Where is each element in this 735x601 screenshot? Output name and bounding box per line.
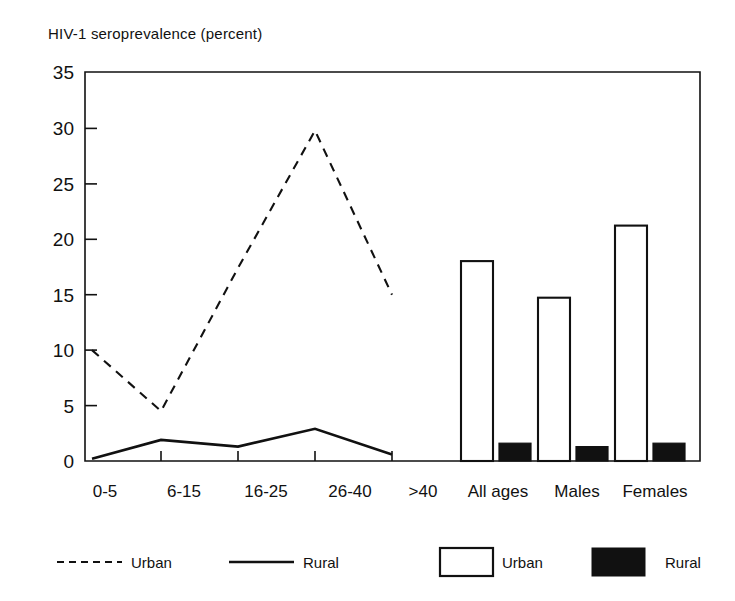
bar-rural-females <box>653 443 685 461</box>
x-tick-label: Females <box>622 482 687 501</box>
bar-urban-males <box>538 298 570 461</box>
x-tick-label: All ages <box>468 482 528 501</box>
y-tick-label: 35 <box>53 62 74 83</box>
bar-urban-all-ages <box>461 261 493 461</box>
y-tick-label: 15 <box>53 285 74 306</box>
plot-frame <box>85 72 700 461</box>
legend-label: Rural <box>665 554 701 571</box>
y-tick-label: 25 <box>53 174 74 195</box>
legend-item-urban-line[interactable]: Urban <box>57 554 172 571</box>
x-tick-label: >40 <box>409 482 438 501</box>
legend-item-urban-bar[interactable]: Urban <box>440 548 543 576</box>
y-tick-label: 30 <box>53 118 74 139</box>
bar-rural-all-ages <box>499 443 531 461</box>
bar-urban-females <box>615 226 647 461</box>
series-urban-line <box>92 131 392 412</box>
legend-item-rural-bar[interactable]: Rural <box>592 548 701 576</box>
white-bar-swatch-icon <box>440 548 493 576</box>
y-axis-ticks <box>85 128 97 405</box>
bar-group-males <box>538 298 608 461</box>
x-axis-labels: 0-5 6-15 16-25 26-40 >40 All ages Males … <box>93 482 688 501</box>
y-tick-label: 5 <box>63 396 74 417</box>
legend-item-rural-line[interactable]: Rural <box>229 554 339 571</box>
y-tick-label: 20 <box>53 229 74 250</box>
black-bar-swatch-icon <box>592 548 645 576</box>
bar-group-females <box>615 226 685 461</box>
chart-plot-area: 35 30 25 20 15 10 5 0 <box>0 0 735 601</box>
x-tick-label: 0-5 <box>93 482 118 501</box>
y-tick-label: 0 <box>63 451 74 472</box>
x-tick-label: Males <box>554 482 599 501</box>
legend-label: Urban <box>502 554 543 571</box>
x-tick-label: 16-25 <box>244 482 287 501</box>
y-tick-label: 10 <box>53 340 74 361</box>
legend-label: Rural <box>303 554 339 571</box>
chart-figure: HIV-1 seroprevalence (percent) 35 30 25 … <box>0 0 735 601</box>
chart-legend: Urban Rural Urban Rural <box>57 548 701 576</box>
bar-group-all-ages <box>461 261 531 461</box>
y-axis-labels: 35 30 25 20 15 10 5 0 <box>53 62 74 472</box>
legend-label: Urban <box>131 554 172 571</box>
bar-rural-males <box>576 447 608 461</box>
x-tick-label: 6-15 <box>167 482 201 501</box>
x-tick-label: 26-40 <box>328 482 371 501</box>
series-rural-line <box>92 429 392 459</box>
